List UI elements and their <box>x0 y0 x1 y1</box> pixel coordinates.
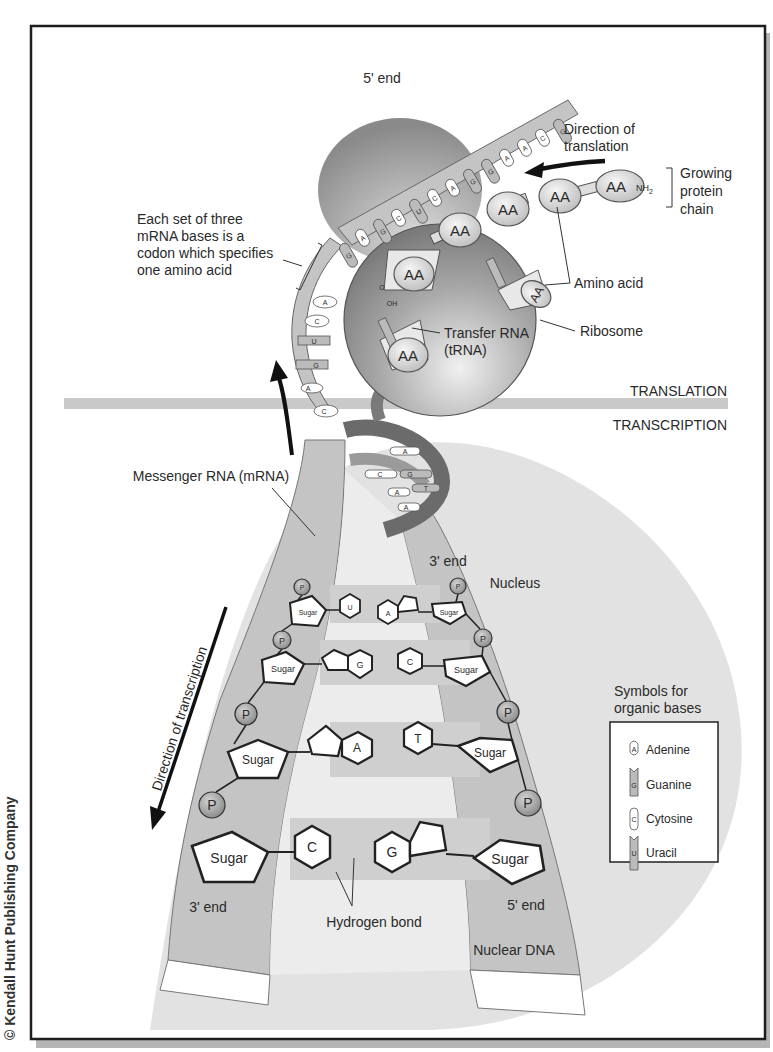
svg-text:Transfer RNA: Transfer RNA <box>444 325 530 341</box>
svg-text:C: C <box>377 471 382 478</box>
svg-text:A: A <box>395 489 400 496</box>
svg-text:G: G <box>631 782 636 789</box>
svg-text:P: P <box>207 797 216 813</box>
svg-text:A: A <box>632 746 637 753</box>
svg-text:A: A <box>404 504 409 511</box>
svg-text:AA: AA <box>498 201 518 218</box>
svg-text:Sugar: Sugar <box>440 609 459 617</box>
end-3-top-label: 3' end <box>429 553 467 569</box>
copyright-notice: © Kendall Hunt Publishing Company <box>2 796 18 1040</box>
svg-text:P: P <box>242 708 250 722</box>
transcription-section-label: TRANSCRIPTION <box>613 417 727 433</box>
svg-text:G: G <box>387 844 398 860</box>
amino-acid-label: Amino acid <box>574 275 643 291</box>
svg-text:Each set of three: Each set of three <box>137 211 243 227</box>
svg-text:AA: AA <box>550 188 570 205</box>
svg-text:A: A <box>386 610 391 617</box>
svg-text:C: C <box>407 657 414 667</box>
svg-text:Guanine: Guanine <box>646 778 692 792</box>
direction-of-translation-label-line2: translation <box>564 138 629 154</box>
ribosome-label: Ribosome <box>580 323 643 339</box>
svg-text:P: P <box>480 634 486 644</box>
svg-text:G: G <box>356 660 363 670</box>
svg-text:Sugar: Sugar <box>491 851 529 867</box>
svg-text:G: G <box>407 471 412 478</box>
hydrogen-bond-label: Hydrogen bond <box>326 914 422 930</box>
svg-text:P: P <box>523 795 532 811</box>
svg-text:Sugar: Sugar <box>210 850 248 866</box>
svg-text:A: A <box>323 299 328 306</box>
messenger-rna-label: Messenger RNA (mRNA) <box>133 468 289 484</box>
svg-text:Uracil: Uracil <box>646 846 677 860</box>
svg-text:Sugar: Sugar <box>242 753 274 767</box>
direction-of-translation-label-line1: Direction of <box>564 121 635 137</box>
nucleus-label: Nucleus <box>490 575 541 591</box>
svg-text:O: O <box>379 284 385 291</box>
svg-text:T: T <box>414 732 422 746</box>
svg-text:Sugar: Sugar <box>474 746 506 760</box>
svg-text:AA: AA <box>450 222 470 239</box>
svg-text:U: U <box>347 604 352 611</box>
svg-text:P: P <box>300 584 305 591</box>
svg-text:Sugar: Sugar <box>299 609 318 617</box>
svg-text:C: C <box>314 318 319 325</box>
svg-text:U: U <box>311 338 316 345</box>
legend-title-line1: Symbols for <box>614 683 688 699</box>
nuclear-dna-label: Nuclear DNA <box>473 942 555 958</box>
end-3-bottom-label: 3' end <box>189 899 227 915</box>
svg-text:P: P <box>456 583 461 590</box>
svg-text:C: C <box>631 816 636 823</box>
svg-text:Sugar: Sugar <box>454 665 478 675</box>
svg-text:Adenine: Adenine <box>646 743 690 757</box>
end-5-bottom-label: 5' end <box>507 897 545 913</box>
figure-canvas: A C G A T A P Sugar U A P Sugar <box>0 0 773 1052</box>
svg-text:chain: chain <box>680 201 713 217</box>
svg-text:T: T <box>424 485 429 492</box>
svg-text:codon which specifies: codon which specifies <box>137 245 273 261</box>
mrna-5-end-label: 5' end <box>363 70 401 86</box>
svg-text:Sugar: Sugar <box>271 664 295 674</box>
svg-text:C: C <box>307 839 317 855</box>
svg-text:Growing: Growing <box>680 165 732 181</box>
svg-text:AA: AA <box>398 347 418 364</box>
svg-text:A: A <box>403 448 408 455</box>
legend-title-line2: organic bases <box>614 700 701 716</box>
svg-text:P: P <box>279 636 285 646</box>
svg-text:A: A <box>306 385 311 392</box>
translation-section-label: TRANSLATION <box>630 383 727 399</box>
svg-text:P: P <box>504 706 512 720</box>
svg-text:OH: OH <box>387 300 398 307</box>
svg-text:Cytosine: Cytosine <box>646 812 693 826</box>
svg-text:AA: AA <box>606 178 626 195</box>
svg-text:G: G <box>313 362 318 369</box>
svg-text:(tRNA): (tRNA) <box>444 342 487 358</box>
svg-text:one amino acid: one amino acid <box>137 262 232 278</box>
svg-text:C: C <box>321 408 326 415</box>
svg-text:AA: AA <box>404 266 424 283</box>
svg-text:A: A <box>353 741 361 755</box>
svg-text:mRNA bases is a: mRNA bases is a <box>137 228 245 244</box>
svg-text:U: U <box>631 850 636 857</box>
svg-text:protein: protein <box>680 183 723 199</box>
